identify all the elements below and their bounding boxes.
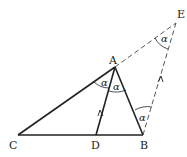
segment-AB (115, 67, 143, 135)
point-label-B: B (140, 139, 148, 152)
point-label-C: C (9, 139, 17, 152)
angle-arc-ABE (135, 107, 152, 110)
geometry-diagram: α α α α A B C D E (0, 0, 187, 157)
point-label-D: D (91, 139, 100, 152)
point-label-E: E (177, 8, 185, 21)
point-label-A: A (108, 54, 118, 67)
alpha-label: α (139, 112, 146, 123)
alpha-label: α (161, 33, 168, 44)
parallel-arrow-BE (158, 76, 163, 82)
alpha-label: α (101, 77, 108, 88)
segment-AE-dashed (115, 23, 176, 67)
alpha-label: α (113, 81, 120, 92)
